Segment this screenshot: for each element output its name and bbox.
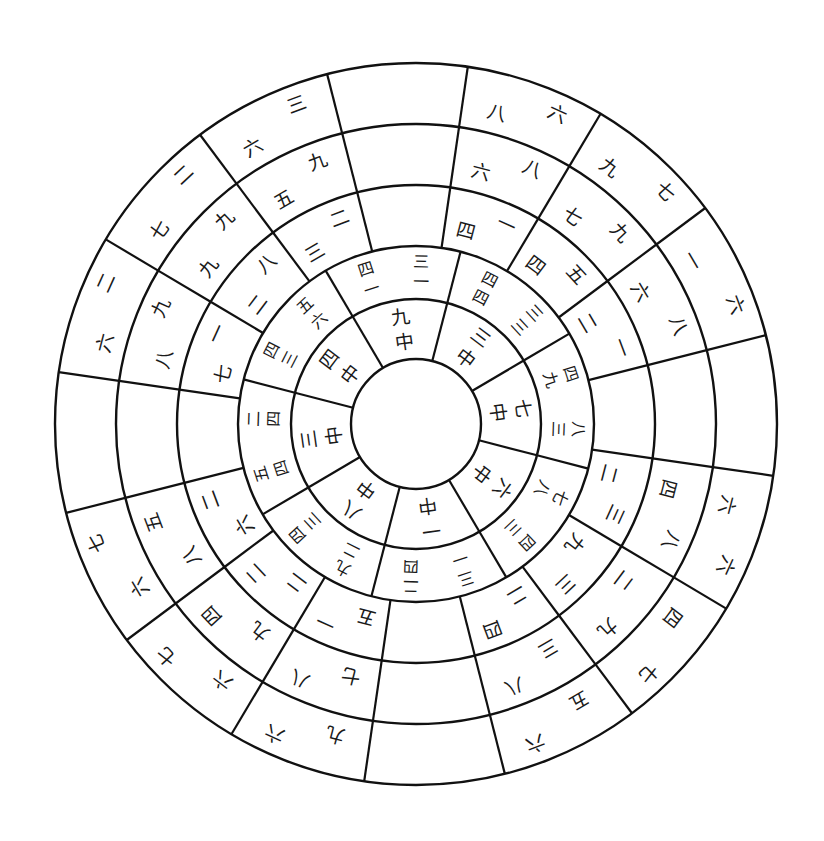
cell-character: 中	[452, 343, 480, 372]
cell-character: 九	[593, 614, 622, 643]
cell-character: 二	[168, 160, 197, 189]
cell-character: 九	[194, 253, 223, 281]
cell-character: 四	[264, 411, 284, 428]
cell-character: 九	[305, 148, 331, 175]
cell-character: 九	[210, 204, 239, 233]
cell-character: 七	[559, 202, 587, 231]
sector-divider	[479, 532, 506, 578]
cell-character: 二	[244, 410, 264, 427]
sector-divider	[432, 303, 447, 361]
cell-character: 四	[403, 556, 420, 576]
cell-character: 四	[454, 218, 478, 244]
cell-character: 八	[502, 673, 528, 700]
sector-divider	[656, 208, 705, 244]
cell-character: 二	[609, 567, 638, 595]
cell-character: 二	[197, 488, 224, 514]
cell-character: 九	[147, 295, 175, 321]
sector-divider	[176, 567, 225, 603]
sector-divider	[442, 187, 451, 247]
sector-divider	[475, 656, 490, 715]
cell-character: 九	[390, 305, 412, 329]
cell-character: 二	[241, 559, 270, 588]
sector-divider	[559, 281, 608, 317]
sector-divider	[119, 381, 179, 390]
sector-divider	[225, 531, 274, 567]
cell-character: 六	[92, 331, 118, 355]
cell-character: 中	[417, 494, 439, 518]
sector-divider	[127, 603, 176, 639]
sector-divider	[490, 715, 505, 774]
cell-character: 六	[230, 511, 259, 539]
cell-character: 三	[413, 252, 430, 272]
cell-character: 三	[297, 428, 321, 450]
cell-character: 六	[523, 730, 549, 757]
sector-divider	[537, 455, 588, 468]
cell-character: 一	[608, 334, 635, 360]
ring-boundary	[291, 299, 541, 549]
sector-divider	[569, 114, 600, 166]
sector-divider	[459, 67, 468, 127]
cell-character: 五	[354, 604, 378, 630]
cell-character: 二	[326, 205, 352, 232]
sector-divider	[244, 379, 295, 392]
cell-character: 中	[486, 401, 510, 423]
cell-character: 八	[252, 249, 281, 278]
sector-divider	[472, 361, 524, 391]
cell-character: 二	[574, 309, 603, 337]
cell-character: 四	[196, 601, 225, 630]
cell-character: 八	[287, 665, 313, 693]
cell-character: 八	[665, 313, 692, 339]
cell-character: 七	[339, 663, 363, 689]
cell-character: 一	[362, 277, 383, 300]
sector-divider	[357, 192, 372, 251]
cell-character: 一	[420, 519, 442, 543]
ring-boundary	[116, 124, 716, 724]
cell-character: 三	[551, 570, 580, 599]
cell-character: 八	[485, 100, 509, 126]
sector-divider	[450, 127, 459, 187]
cell-character: 六	[714, 493, 740, 517]
cell-character: 二	[402, 576, 419, 596]
sector-divider	[273, 233, 309, 282]
sector-divider	[589, 365, 648, 380]
cell-character: 八	[568, 421, 588, 438]
sector-divider	[326, 271, 353, 317]
sector-dividers	[59, 67, 774, 782]
cell-characters: 中九中三中七中六中一中八中三中四四三一一四三四三四八九三七四八三三二一四九四二三…	[83, 91, 750, 758]
cell-character: 九	[561, 530, 590, 558]
cell-character: 八	[151, 347, 177, 371]
cell-character: 六	[544, 99, 570, 127]
cell-character: 三	[301, 238, 329, 267]
cell-character: 三	[548, 420, 568, 437]
ring-boundary	[55, 63, 777, 785]
cell-character: 一	[312, 610, 338, 638]
cell-character: 三	[534, 634, 562, 663]
sector-divider	[200, 135, 236, 184]
sector-divider	[364, 721, 373, 781]
cell-character: 二	[91, 270, 119, 296]
cell-character: 一	[412, 272, 429, 292]
sector-divider	[179, 390, 239, 399]
cell-character: 六	[626, 278, 655, 306]
cell-character: 四	[655, 477, 681, 501]
sector-divider	[125, 483, 184, 498]
cell-character: 中	[393, 330, 415, 354]
sector-divider	[559, 615, 595, 664]
cell-character: 二	[242, 290, 271, 318]
cell-character: 二	[282, 569, 310, 598]
cell-character: 六	[125, 573, 154, 601]
cell-character: 七	[511, 398, 535, 420]
sector-divider	[327, 74, 342, 133]
cell-character: 五	[140, 510, 167, 536]
sector-divider	[713, 467, 773, 476]
cell-character: 五	[565, 687, 593, 716]
sector-divider	[184, 468, 243, 483]
cell-character: 九	[540, 370, 563, 391]
cell-character: 中	[468, 460, 497, 488]
cell-character: 一	[202, 320, 230, 346]
cell-character: 一	[679, 247, 708, 275]
cell-character: 六	[208, 666, 236, 695]
sector-divider	[449, 480, 479, 532]
sector-divider	[231, 682, 262, 734]
cell-character: 七	[145, 216, 174, 244]
